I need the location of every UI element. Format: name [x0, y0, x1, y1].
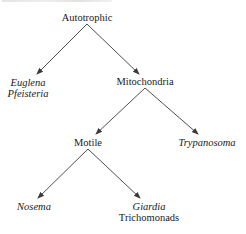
node-motile: Motile [74, 137, 102, 148]
node-trypanosoma-label: Trypanosoma [178, 137, 235, 148]
node-pfeisteria-label: Pfeisteria [8, 88, 49, 99]
node-mitochondria: Mitochondria [116, 76, 173, 87]
tree-edges [0, 0, 246, 234]
node-mitochondria-label: Mitochondria [116, 76, 173, 87]
edge-mitochondria-trypanosoma [145, 88, 198, 134]
node-euglena-pfeisteria: Euglena Pfeisteria [8, 77, 49, 99]
node-giardia-trichomonads: Giardia Trichomonads [119, 201, 179, 223]
edge-mitochondria-motile [96, 88, 145, 134]
node-trichomonads-label: Trichomonads [119, 212, 179, 223]
node-autotrophic: Autotrophic [62, 12, 113, 23]
edge-autotrophic-mitochondria [87, 24, 139, 74]
node-nosema-label: Nosema [17, 201, 51, 212]
node-giardia-label: Giardia [119, 201, 179, 212]
node-autotrophic-label: Autotrophic [62, 12, 113, 23]
node-trypanosoma: Trypanosoma [178, 137, 235, 148]
node-motile-label: Motile [74, 137, 102, 148]
edge-motile-giardia [88, 149, 140, 198]
edge-motile-nosema [38, 149, 88, 198]
node-nosema: Nosema [17, 201, 51, 212]
node-euglena-label: Euglena [8, 77, 49, 88]
edge-autotrophic-euglena [37, 24, 87, 74]
